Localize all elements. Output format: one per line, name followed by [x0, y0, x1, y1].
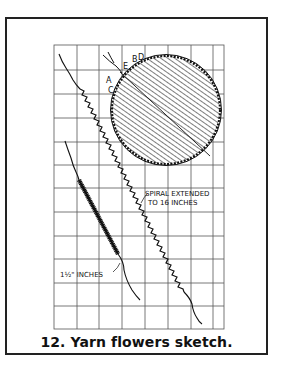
- flower-circle: [111, 55, 222, 166]
- spiral-label-line2: TO 16 INCHES: [147, 199, 198, 207]
- label-b: B: [132, 55, 138, 64]
- label-d: D: [138, 53, 144, 62]
- short-coil-leader: [113, 263, 120, 272]
- yarn-flower-sketch: E B D A C SPIRAL EXTENDED TO 16 INCHES 1…: [0, 0, 286, 373]
- label-c: C: [108, 86, 114, 95]
- figure-caption: 12. Yarn flowers sketch.: [5, 334, 268, 350]
- label-a: A: [106, 76, 112, 85]
- spiral-label-line1: SPIRAL EXTENDED: [145, 190, 209, 198]
- label-e: E: [123, 62, 128, 71]
- short-coil-label: 1½" INCHES: [60, 271, 104, 279]
